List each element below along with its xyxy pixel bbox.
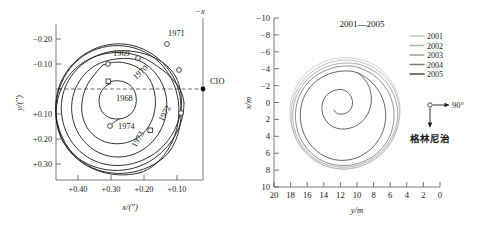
greenwich-arrow-head-icon [428, 123, 432, 129]
y-tick-label-4: −2 [261, 81, 270, 91]
x-tick-label-5: 10 [353, 190, 362, 200]
direction-east-label: 90° [452, 101, 464, 110]
y-tick-label-1: −8 [261, 30, 270, 40]
year-label-1969: 1969 [113, 49, 130, 58]
year-label-1974: 1974 [118, 122, 136, 131]
marker-1969 [106, 62, 111, 67]
legend-label-2004: 2004 [427, 61, 443, 70]
year-label-1970: 1970 [131, 64, 149, 82]
legend-label-2001: 2001 [427, 32, 443, 41]
x-tick-label-1: +0.30 [102, 185, 121, 194]
legend-label-2003: 2003 [427, 51, 443, 60]
marker-1971-b [177, 68, 182, 73]
y-tick-label-3: +0.20 [33, 135, 52, 144]
y-tick-label-0: −0.20 [33, 35, 52, 44]
x-tick-label-2: 16 [303, 190, 312, 200]
curve-2003 [293, 63, 398, 167]
y-tick-label-1: −0.10 [33, 60, 52, 69]
east-arrow-head-icon [445, 103, 450, 107]
polar-motion-figure: −0.20 −0.10 +0.10 +0.20 +0.30 +0.40 +0.3… [0, 0, 481, 230]
x-axis-ticks [78, 175, 177, 180]
origin-marker [428, 103, 432, 107]
curve-2005 [300, 71, 385, 160]
y-axis-ticks [274, 18, 279, 187]
x-tick-label-3: 14 [320, 190, 329, 200]
chart-title: 2001—2005 [340, 19, 386, 29]
x-tick-label-10: 0 [438, 190, 442, 200]
left-chart-svg: −0.20 −0.10 +0.10 +0.20 +0.30 +0.40 +0.3… [0, 0, 240, 230]
x-tick-label-9: 2 [421, 190, 425, 200]
x-tick-label-0: 20 [270, 190, 279, 200]
x-axis-title: y/m [350, 205, 363, 215]
y-tick-label-2: −6 [261, 47, 271, 57]
x-tick-label-1: 18 [286, 190, 295, 200]
x-tick-label-6: 8 [371, 190, 375, 200]
y-tick-label-5: 0 [266, 98, 270, 108]
x-axis-title: x/(″) [121, 202, 138, 212]
curve-2004 [295, 66, 394, 166]
y-tick-label-6: 2 [266, 114, 270, 124]
marker-1971 [165, 42, 170, 47]
marker-1972 [179, 111, 184, 116]
cio-point [201, 87, 206, 92]
marker-1968 [106, 79, 110, 83]
right-chart-svg: −10 −8 −6 −4 −2 0 2 4 6 8 10 [240, 0, 481, 230]
x-axis-ticks [274, 182, 440, 187]
y-tick-label-2: +0.10 [33, 110, 52, 119]
y-tick-label-7: 4 [266, 131, 271, 141]
year-label-1968: 1968 [116, 94, 133, 103]
x-tick-label-4: 12 [336, 190, 345, 200]
y-tick-label-9: 8 [266, 165, 270, 175]
marker-1970 [136, 56, 141, 61]
legend-label-2005: 2005 [427, 70, 443, 79]
x-tick-label-8: 4 [405, 190, 410, 200]
y-axis-title: y/(″) [14, 95, 24, 112]
marker-1974 [108, 124, 113, 129]
direction-greenwich-label: 格林尼治 [410, 133, 450, 144]
minus-x-axis-label: −x [195, 7, 205, 16]
x-tick-label-2: +0.20 [135, 185, 154, 194]
y-axis-title: x/m [243, 97, 253, 110]
year-label-1971: 1971 [168, 29, 185, 38]
y-tick-label-8: 6 [266, 148, 271, 158]
direction-indicator: 90° 格林尼治 [410, 101, 464, 144]
curve-2005-inner [322, 73, 372, 129]
x-tick-label-3: +0.10 [168, 185, 187, 194]
curve-1970 [72, 58, 167, 157]
legend: 2001 2002 2003 2004 2005 [410, 32, 443, 79]
cio-label: CIO [210, 77, 224, 86]
x-tick-label-7: 6 [388, 190, 393, 200]
polar-motion-spiral-2001-2005 [290, 58, 400, 169]
y-tick-label-4: +0.30 [33, 160, 52, 169]
y-tick-label-3: −4 [261, 64, 271, 74]
year-label-1972: 1972 [157, 104, 173, 123]
legend-label-2002: 2002 [427, 42, 443, 51]
x-tick-label-0: +0.40 [69, 185, 88, 194]
polar-motion-arcsec-panel: −0.20 −0.10 +0.10 +0.20 +0.30 +0.40 +0.3… [0, 0, 240, 230]
marker-1973 [148, 128, 152, 132]
y-tick-label-10: 10 [261, 182, 270, 192]
polar-motion-metre-panel: −10 −8 −6 −4 −2 0 2 4 6 8 10 [240, 0, 481, 230]
y-tick-label-0: −10 [257, 13, 270, 23]
